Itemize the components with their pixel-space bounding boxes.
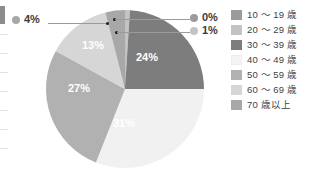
cropped-rule <box>0 91 8 92</box>
legend-swatch-icon <box>231 25 242 35</box>
legend-swatch-icon <box>231 100 242 110</box>
cropped-rule <box>0 72 8 73</box>
legend-item[interactable]: 70 歳以上 <box>231 97 311 112</box>
callout-dot-icon <box>12 16 20 24</box>
callout-1: 1% <box>190 25 218 36</box>
leader-line-4 <box>48 23 106 24</box>
legend-swatch-icon <box>231 10 242 20</box>
leader-line-1 <box>117 32 190 33</box>
chart-figure: 24%31%27%13% 4% 0% 1% 10 〜 19 歳20 〜 29 歳… <box>0 0 313 174</box>
cropped-rule <box>0 129 8 130</box>
cropped-rule <box>0 110 8 111</box>
cropped-legend-swatch <box>0 6 5 24</box>
leader-anchor-4 <box>106 22 109 25</box>
legend-item-label: 70 歳以上 <box>247 100 291 110</box>
legend-item-label: 20 〜 29 歳 <box>247 25 297 35</box>
legend-item[interactable]: 60 〜 69 歳 <box>231 82 311 97</box>
pie-chart: 24%31%27%13% <box>46 10 204 168</box>
legend-swatch-icon <box>231 55 242 65</box>
pie-slice-value-label: 27% <box>68 82 90 94</box>
legend-item[interactable]: 50 〜 59 歳 <box>231 67 311 82</box>
legend-item[interactable]: 10 〜 19 歳 <box>231 7 311 22</box>
callout-label: 0% <box>202 12 218 23</box>
pie-svg: 24%31%27%13% <box>46 10 204 168</box>
callout-label: 1% <box>202 25 218 36</box>
cropped-rule <box>0 53 8 54</box>
legend-item-label: 10 〜 19 歳 <box>247 10 297 20</box>
legend-swatch-icon <box>231 40 242 50</box>
legend-swatch-icon <box>231 70 242 80</box>
pie-slice-value-label: 31% <box>113 117 135 129</box>
callout-label: 4% <box>24 14 40 25</box>
legend: 10 〜 19 歳20 〜 29 歳30 〜 39 歳40 〜 49 歳50 〜… <box>231 7 311 112</box>
callout-0: 0% <box>190 12 218 23</box>
cropped-rule <box>0 34 8 35</box>
cropped-rule <box>0 148 8 149</box>
legend-swatch-icon <box>231 85 242 95</box>
legend-item-label: 30 〜 39 歳 <box>247 40 297 50</box>
callout-dot-icon <box>190 27 198 35</box>
legend-item[interactable]: 30 〜 39 歳 <box>231 37 311 52</box>
legend-item-label: 50 〜 59 歳 <box>247 70 297 80</box>
callout-4: 4% <box>12 14 40 25</box>
pie-slice-value-label: 13% <box>82 39 104 51</box>
legend-item[interactable]: 20 〜 29 歳 <box>231 22 311 37</box>
pie-slice-value-label: 24% <box>136 51 158 63</box>
cropped-edge-element <box>0 0 8 174</box>
legend-item-label: 60 〜 69 歳 <box>247 85 297 95</box>
leader-line-0 <box>115 19 190 20</box>
legend-item[interactable]: 40 〜 49 歳 <box>231 52 311 67</box>
legend-item-label: 40 〜 49 歳 <box>247 55 297 65</box>
callout-dot-icon <box>190 14 198 22</box>
